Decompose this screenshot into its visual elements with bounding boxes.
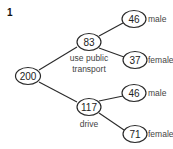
branch-label-line: transport <box>72 64 106 74</box>
root-node: 200 <box>16 68 41 85</box>
edge-drive-to-female <box>99 113 124 130</box>
branch-label-line: use public <box>70 53 109 63</box>
leaf-node-value: 37 <box>129 55 141 66</box>
leaf-node-value: 46 <box>128 14 140 25</box>
leaf-label: male <box>148 88 167 98</box>
leaf-node-public-transport-female: 37 <box>123 52 147 69</box>
question-number: 1 <box>7 7 13 18</box>
leaf-node-drive-male: 46 <box>122 85 146 102</box>
leaf-node-public-transport-male: 46 <box>122 11 146 28</box>
tree-diagram: 1 200 83 use public transport 46 male 37… <box>0 0 173 149</box>
leaf-label: female <box>148 55 173 65</box>
branch-node-drive: 117 <box>77 99 101 116</box>
edge-drive-to-male <box>99 96 123 101</box>
root-node-value: 200 <box>20 71 37 82</box>
branch-node-value: 117 <box>81 102 97 113</box>
leaf-node-value: 46 <box>128 88 140 99</box>
leaf-label: female <box>148 129 173 139</box>
leaf-label: male <box>148 14 167 24</box>
leaf-node-value: 71 <box>129 129 141 140</box>
branch-node-value: 83 <box>83 37 95 48</box>
branch-label-line: drive <box>80 119 99 129</box>
edge-root-to-drive <box>39 82 77 102</box>
edge-public-transport-to-male <box>99 23 123 36</box>
leaf-node-drive-female: 71 <box>123 126 147 143</box>
branch-node-public-transport: 83 <box>77 34 101 51</box>
